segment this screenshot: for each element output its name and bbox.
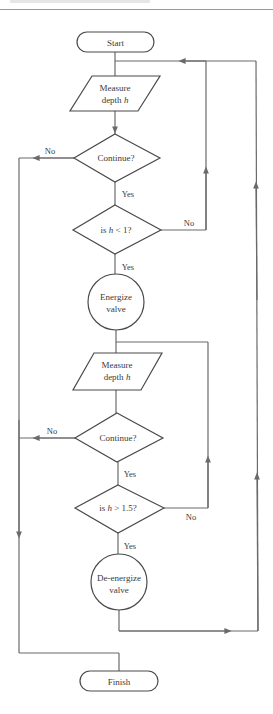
check-high-no-label: No [186,512,196,522]
flowchart: Start Measure depth h Continue? No Yes i… [0,0,273,714]
check-low-yes-label: Yes [122,262,134,272]
check-high-yes-label: Yes [124,541,136,551]
deenergize-line1: De-energize [97,573,141,583]
measure1-line1: Measure [100,83,131,93]
energize-line1: Energize [100,292,132,302]
measure1-line2: depth h [102,95,129,105]
check-low-label: is h < 1? [101,225,132,235]
start-terminator: Start [77,32,154,52]
energize-line2: valve [106,304,126,314]
energize-valve-process: Energize valve [88,274,144,330]
deenergize-valve-process: De-energize valve [91,554,147,610]
continue-decision-1: Continue? [74,134,160,182]
measure-depth-input-1: Measure depth h [70,76,160,111]
measure-depth-input-2: Measure depth h [73,353,162,390]
check-low-decision: is h < 1? [73,205,161,254]
measure2-line2: depth h [104,372,131,382]
check-high-decision: is h > 1.5? [75,485,164,533]
finish-terminator: Finish [80,671,158,691]
continue1-label: Continue? [98,153,135,163]
measure2-line1: Measure [102,360,133,370]
check-high-label: is h > 1.5? [99,503,137,513]
continue2-yes-label: Yes [124,469,136,479]
finish-label: Finish [108,677,131,687]
start-label: Start [107,38,124,48]
deenergize-line2: valve [109,585,129,595]
continue2-label: Continue? [100,433,137,443]
continue1-no-label: No [45,146,55,156]
check-low-no-label: No [184,218,194,228]
continue1-yes-label: Yes [122,189,134,199]
continue2-no-label: No [47,426,57,436]
continue-decision-2: Continue? [75,413,163,462]
